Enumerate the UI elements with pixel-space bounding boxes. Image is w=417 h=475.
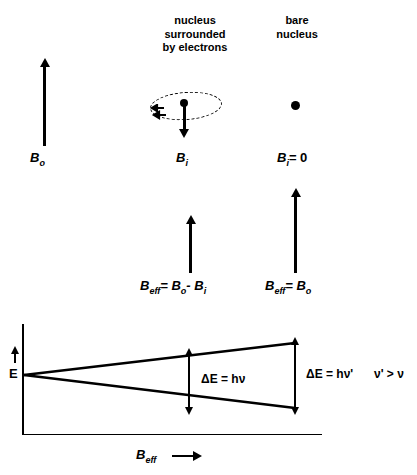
beff-axis-label: Beff xyxy=(136,447,156,465)
delta-e-measure-bare xyxy=(294,344,296,408)
applied-field-subscript: o xyxy=(39,158,45,168)
frequency-comparison-label: ν' > ν xyxy=(374,367,404,381)
delta-e-label-shielded: ΔE = hν xyxy=(201,372,245,386)
effective-field-arrow-bare xyxy=(294,196,297,273)
electron-motion-arrows-icon xyxy=(150,104,180,122)
upper-energy-level-line xyxy=(24,343,295,375)
bare-induced-field-symbol: B xyxy=(277,150,286,165)
nmr-shielding-diagram: nucleus surrounded by electrons bare nuc… xyxy=(0,0,417,475)
effective-field-arrow-shielded xyxy=(189,223,192,273)
beff-subscript-bare: eff xyxy=(274,286,285,296)
nuclear-spin-arrow-icon xyxy=(183,104,186,130)
induced-field-symbol: B xyxy=(176,150,185,165)
beff-symbol-shielded: B xyxy=(140,278,149,293)
beff-axis-arrow-stem xyxy=(172,455,194,457)
applied-field-symbol: B xyxy=(30,150,39,165)
induced-field-subscript: i xyxy=(185,158,188,168)
beff-equation-shielded: Beff= Bo- Bi xyxy=(140,278,206,296)
beff-symbol-bare: B xyxy=(265,278,274,293)
applied-field-label: Bo xyxy=(30,150,45,168)
beff-equation-bare: Beff= Bo xyxy=(265,278,311,296)
bare-induced-field-label: Bi= 0 xyxy=(277,150,307,168)
induced-field-label: Bi xyxy=(176,150,188,168)
beff-subscript-shielded: eff xyxy=(149,286,160,296)
beff-axis-symbol: B xyxy=(136,447,145,462)
beff-axis-arrow-head-icon xyxy=(193,451,202,461)
heading-bare-nucleus: bare nucleus xyxy=(252,14,342,41)
heading-shielded-nucleus: nucleus surrounded by electrons xyxy=(140,14,250,55)
beff-expr-mid-shielded: - B xyxy=(186,278,203,293)
beff-axis-subscript: eff xyxy=(145,455,156,465)
zeeman-splitting-lines xyxy=(0,320,340,440)
bare-nucleus-dot-icon xyxy=(291,101,300,110)
beff-expr-shielded: = B xyxy=(160,278,181,293)
bare-induced-field-value: = 0 xyxy=(289,150,307,165)
delta-e-measure-shielded xyxy=(188,355,190,408)
beff-expr-sub2-shielded: i xyxy=(204,286,207,296)
beff-expr-sub1-bare: o xyxy=(306,286,312,296)
beff-expr-bare: = B xyxy=(285,278,306,293)
lower-energy-level-line xyxy=(24,375,295,408)
applied-field-arrow xyxy=(43,66,46,146)
delta-e-label-bare: ΔE = hν' xyxy=(306,367,353,381)
